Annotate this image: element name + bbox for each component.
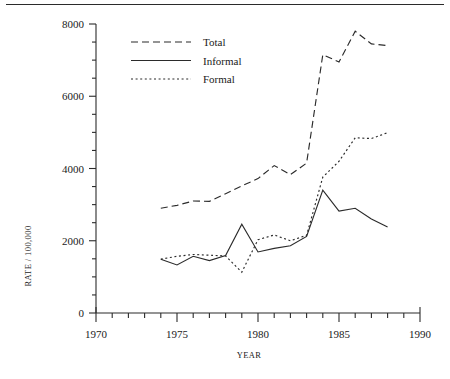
x-tick-label: 1990 xyxy=(409,328,432,340)
x-axis: 19701975198019851990 xyxy=(85,307,432,340)
y-axis-title: RATE / 100,000 xyxy=(23,225,33,286)
y-tick-label: 8000 xyxy=(62,18,85,30)
y-tick-label: 2000 xyxy=(62,235,85,247)
x-tick-label: 1980 xyxy=(247,328,270,340)
y-axis-major-ticks xyxy=(89,24,96,313)
x-tick-label: 1985 xyxy=(328,328,351,340)
legend-label-formal: Formal xyxy=(203,73,235,85)
x-axis-tick-labels: 19701975198019851990 xyxy=(85,328,432,340)
y-tick-label: 0 xyxy=(79,307,85,319)
series-line-total xyxy=(161,31,388,208)
y-axis-tick-labels: 02000400060008000 xyxy=(62,18,85,319)
data-series-group xyxy=(161,31,388,272)
legend-label-informal: Informal xyxy=(203,55,241,67)
x-tick-label: 1970 xyxy=(85,328,108,340)
legend-label-total: Total xyxy=(203,36,225,48)
series-line-formal xyxy=(161,133,388,272)
y-tick-label: 4000 xyxy=(62,163,85,175)
chart-legend: TotalInformalFormal xyxy=(131,36,241,85)
y-axis: 02000400060008000 xyxy=(62,18,96,319)
line-chart: 02000400060008000 19701975198019851990 Y… xyxy=(0,0,450,379)
x-axis-title: YEAR xyxy=(237,350,262,360)
y-tick-label: 6000 xyxy=(62,90,85,102)
x-tick-label: 1975 xyxy=(166,328,189,340)
chart-figure: 02000400060008000 19701975198019851990 Y… xyxy=(0,0,450,379)
